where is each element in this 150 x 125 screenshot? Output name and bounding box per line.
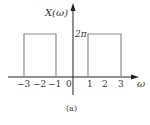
x-axis-label: ω (137, 78, 145, 89)
x-tick-labels: −3 −2 −1 0 1 2 3 (17, 79, 124, 89)
tick-label: −1 (48, 79, 61, 89)
figure-caption: (a) (66, 104, 77, 113)
tick-label: 1 (87, 79, 93, 89)
height-label: 2π (74, 29, 88, 39)
tick-label: −2 (33, 79, 46, 89)
tick-label: 3 (118, 79, 124, 89)
spectrum-figure: X(ω) 2π ω −3 −2 −1 0 1 2 3 (a) (0, 0, 150, 125)
pulse-right (88, 34, 121, 77)
tick-label: −3 (17, 79, 31, 89)
tick-label: 2 (102, 79, 108, 89)
tick-label: 0 (66, 79, 72, 89)
pulse-left (24, 34, 56, 77)
y-axis-label: X(ω) (44, 7, 68, 18)
y-axis-arrow-icon (71, 3, 76, 11)
